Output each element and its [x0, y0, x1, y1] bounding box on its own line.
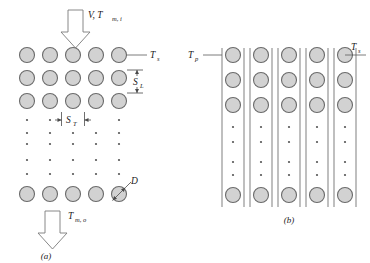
tube	[20, 94, 35, 109]
dot	[260, 174, 262, 176]
dot	[288, 126, 290, 128]
tube	[310, 188, 325, 203]
tube	[310, 98, 325, 113]
longitudinal-pitch-subscript: L	[139, 82, 144, 89]
dot	[316, 126, 318, 128]
dot	[49, 132, 51, 134]
tube	[66, 187, 81, 202]
surface-temp-subscript-b: s	[358, 47, 361, 54]
dot	[316, 141, 318, 143]
tube	[43, 48, 58, 63]
dot	[260, 126, 262, 128]
tube	[66, 71, 81, 86]
dot	[118, 132, 120, 134]
dot	[95, 173, 97, 175]
outlet-label-subscript: m, o	[75, 216, 87, 223]
dot	[49, 159, 51, 161]
dot	[118, 173, 120, 175]
outlet-flow-arrow	[38, 211, 67, 249]
tube	[20, 71, 35, 86]
tube	[254, 48, 269, 63]
tube	[282, 188, 297, 203]
dot	[288, 174, 290, 176]
dot	[344, 174, 346, 176]
dot	[344, 141, 346, 143]
plate-temp-subscript: p	[194, 55, 199, 62]
tube	[282, 48, 297, 63]
tube	[43, 94, 58, 109]
continuation-dots-panel-b	[232, 126, 346, 176]
panel-b: T p	[188, 42, 366, 225]
tube-array-top	[20, 48, 127, 109]
dot	[95, 143, 97, 145]
dot	[26, 159, 28, 161]
tube	[338, 98, 353, 113]
tube	[226, 188, 241, 203]
dot	[26, 143, 28, 145]
panel-a-caption: (a)	[41, 251, 52, 261]
tube	[254, 73, 269, 88]
tube	[310, 73, 325, 88]
tube	[226, 73, 241, 88]
dot	[26, 173, 28, 175]
dot	[72, 159, 74, 161]
tube	[43, 187, 58, 202]
panel-b-caption: (b)	[284, 215, 295, 225]
dot	[26, 119, 28, 121]
dot	[118, 159, 120, 161]
panel-a: V, T m, i	[20, 10, 161, 261]
dot	[316, 174, 318, 176]
surface-temp-label-b: T	[351, 42, 357, 52]
dot	[344, 161, 346, 163]
continuation-dots-panel-a	[26, 119, 120, 175]
tube	[89, 187, 104, 202]
transverse-pitch-subscript: T	[73, 120, 77, 127]
tube	[226, 48, 241, 63]
dot	[232, 161, 234, 163]
tube	[112, 48, 127, 63]
tube	[112, 94, 127, 109]
dot	[232, 141, 234, 143]
tube	[226, 98, 241, 113]
dot	[288, 141, 290, 143]
dot	[49, 119, 51, 121]
inlet-flow-arrow	[61, 10, 90, 48]
surface-temp-label: T	[150, 50, 156, 60]
dot	[316, 161, 318, 163]
transverse-pitch-label: S	[66, 115, 71, 125]
dot	[72, 132, 74, 134]
tube	[20, 48, 35, 63]
dot	[232, 126, 234, 128]
dot	[288, 161, 290, 163]
figure-canvas: V, T m, i	[0, 0, 370, 263]
longitudinal-pitch-label: S	[133, 77, 138, 87]
plate-temp-label: T	[188, 50, 194, 60]
dot	[260, 141, 262, 143]
dot	[72, 143, 74, 145]
dot	[26, 132, 28, 134]
dot	[344, 126, 346, 128]
inlet-label: V, T	[88, 10, 103, 20]
tube	[112, 71, 127, 86]
dot	[118, 143, 120, 145]
tube	[338, 73, 353, 88]
diameter-label: D	[130, 176, 138, 186]
tube	[89, 48, 104, 63]
dot	[260, 161, 262, 163]
dot	[49, 173, 51, 175]
tube	[66, 48, 81, 63]
dot	[118, 119, 120, 121]
tube	[254, 98, 269, 113]
tube	[89, 94, 104, 109]
dot	[95, 132, 97, 134]
dot	[49, 143, 51, 145]
tube	[43, 71, 58, 86]
dot	[72, 173, 74, 175]
tube-bank-figure: V, T m, i	[0, 0, 370, 263]
tube	[66, 94, 81, 109]
tube	[310, 48, 325, 63]
tube	[338, 188, 353, 203]
tube	[282, 73, 297, 88]
outlet-label: T	[68, 211, 74, 221]
dot	[95, 159, 97, 161]
